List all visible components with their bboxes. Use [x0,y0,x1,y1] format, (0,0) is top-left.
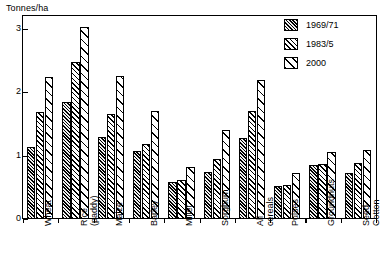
x-tick-mark [341,219,342,223]
legend-label-1983-5: 1983/5 [306,38,334,50]
x-tick-mark [305,219,306,223]
x-axis-label-wheat: Wheat [44,200,54,226]
y-axis-label: Tonnes/ha [6,3,48,13]
bar [345,173,353,219]
x-axis-label-line: Barley [149,200,159,226]
bar [45,77,53,219]
x-axis-label-line: All [255,216,265,226]
bar [274,186,282,219]
x-axis-label-maize: Maize [115,202,125,226]
x-tick-mark [58,219,59,223]
legend-item-1969-71: 1969/71 [284,18,372,34]
legend-item-2000: 2000 [284,56,372,72]
x-axis-label-all-cereals: Allcereals [256,197,275,226]
legend-swatch-icon-1983-5 [284,38,298,50]
x-axis-label-line: Pulses [290,199,300,226]
x-axis-label-line: Millet [184,205,194,226]
x-axis-label-line: Cotton [371,199,381,226]
x-axis-label-sorghum: Sorghum [221,189,231,226]
y-tick-label: 0 [16,213,21,224]
bar [116,76,124,219]
x-axis-label-line: Maize [114,202,124,226]
bar [309,165,317,219]
bar [62,102,70,219]
x-axis-label-line: Groundnuts [326,179,336,226]
legend-swatch-icon-1969-71 [284,19,298,31]
x-axis-label-line: cereals [266,197,276,226]
chart-figure: Tonnes/ha 0123 WheatRice(paddy)MaizeBarl… [0,0,383,277]
bar [248,111,256,219]
bar [168,182,176,219]
x-axis-label-line: Sorghum [220,189,230,226]
legend-label-2000: 2000 [306,57,326,69]
x-tick-mark [129,219,130,223]
x-axis-label-line: Seed- [361,202,371,226]
x-axis-label-line: Wheat [43,200,53,226]
y-tick-label: 3 [16,23,21,34]
x-axis-label-line: Rice [79,208,89,226]
x-axis-label-seed-cotton: Seed-Cotton [362,199,381,226]
bar [27,147,35,219]
bar [71,62,79,219]
chart-legend: 1969/71 1983/5 2000 [284,18,372,75]
legend-item-1983-5: 1983/5 [284,37,372,53]
x-tick-mark [200,219,201,223]
x-axis-label-barley: Barley [150,200,160,226]
x-axis-label-groundnuts: Groundnuts [327,179,337,226]
bar [204,172,212,219]
x-tick-mark [23,219,24,223]
y-tick-label: 2 [16,86,21,97]
bar [239,138,247,219]
x-axis-label-line: (paddy) [89,195,99,226]
x-tick-mark [164,219,165,223]
x-axis-label-rice-paddy: Rice(paddy) [80,195,99,226]
y-tick-label: 1 [16,150,21,161]
x-axis-label-pulses: Pulses [291,199,301,226]
bar [133,151,141,219]
legend-swatch-icon-2000 [284,57,298,69]
legend-label-1969-71: 1969/71 [306,19,339,31]
bar [80,27,88,219]
x-axis-label-millet: Millet [185,205,195,226]
x-tick-mark [235,219,236,223]
